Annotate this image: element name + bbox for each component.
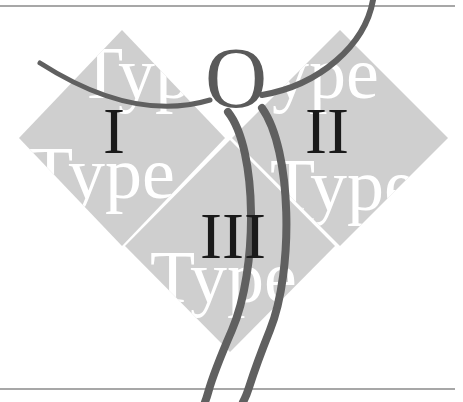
figure-head-o: O	[205, 30, 267, 126]
numeral-type-1: I	[103, 94, 125, 167]
numeral-type-2: II	[305, 94, 349, 167]
numeral-type-3: III	[200, 199, 266, 272]
watermark-type-bottom-left: Type	[28, 132, 175, 214]
type-diagram-illustration: Type Type Type Type Type O I II III	[0, 0, 463, 402]
